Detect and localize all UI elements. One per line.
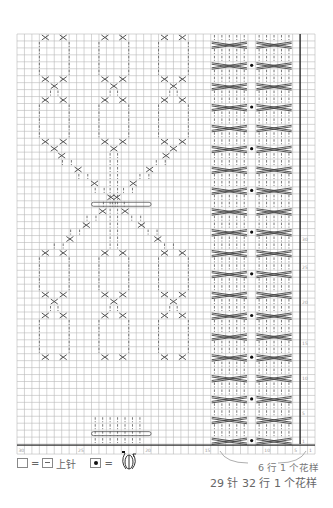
svg-text:1: 1	[302, 439, 305, 444]
svg-text:20: 20	[302, 300, 308, 305]
svg-text:30: 30	[302, 237, 308, 242]
legend: = 上针 =	[17, 455, 142, 471]
knitting-chart: 302520151051302520151051	[0, 0, 333, 455]
caption-six-row-repeat: 6 行 1 个花样	[258, 460, 319, 474]
caption-pattern-repeat: 29 针 32 行 1 个花样	[210, 474, 317, 490]
bobble-wrap-icon	[116, 449, 142, 471]
svg-text:25: 25	[302, 265, 308, 270]
bobble-dot-icon	[90, 458, 101, 468]
svg-text:15: 15	[302, 341, 308, 346]
svg-text:30: 30	[19, 448, 25, 453]
legend-equals-2: =	[104, 458, 112, 469]
legend-equals-1: =	[31, 458, 39, 469]
svg-text:1: 1	[309, 448, 312, 453]
purl-symbol-icon	[42, 458, 53, 468]
legend-purl-label: 上针	[56, 456, 76, 471]
svg-text:10: 10	[302, 376, 308, 381]
svg-text:5: 5	[302, 411, 305, 416]
svg-text:25: 25	[78, 448, 84, 453]
svg-text:15: 15	[205, 448, 211, 453]
blank-square-icon	[17, 458, 28, 468]
svg-text:20: 20	[145, 448, 151, 453]
